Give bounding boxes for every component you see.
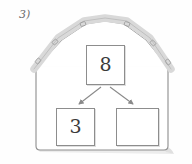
number-bond-part-2-box[interactable] <box>116 108 159 146</box>
number-bond-whole-value: 8 <box>99 55 111 74</box>
problem-number-label: 3) <box>19 5 45 25</box>
number-bond-part-1-value: 3 <box>69 117 81 136</box>
number-bond-whole-box[interactable]: 8 <box>86 45 125 85</box>
worksheet-page: 3) 8 3 <box>0 0 192 164</box>
number-bond-part-1-box[interactable]: 3 <box>56 108 95 146</box>
